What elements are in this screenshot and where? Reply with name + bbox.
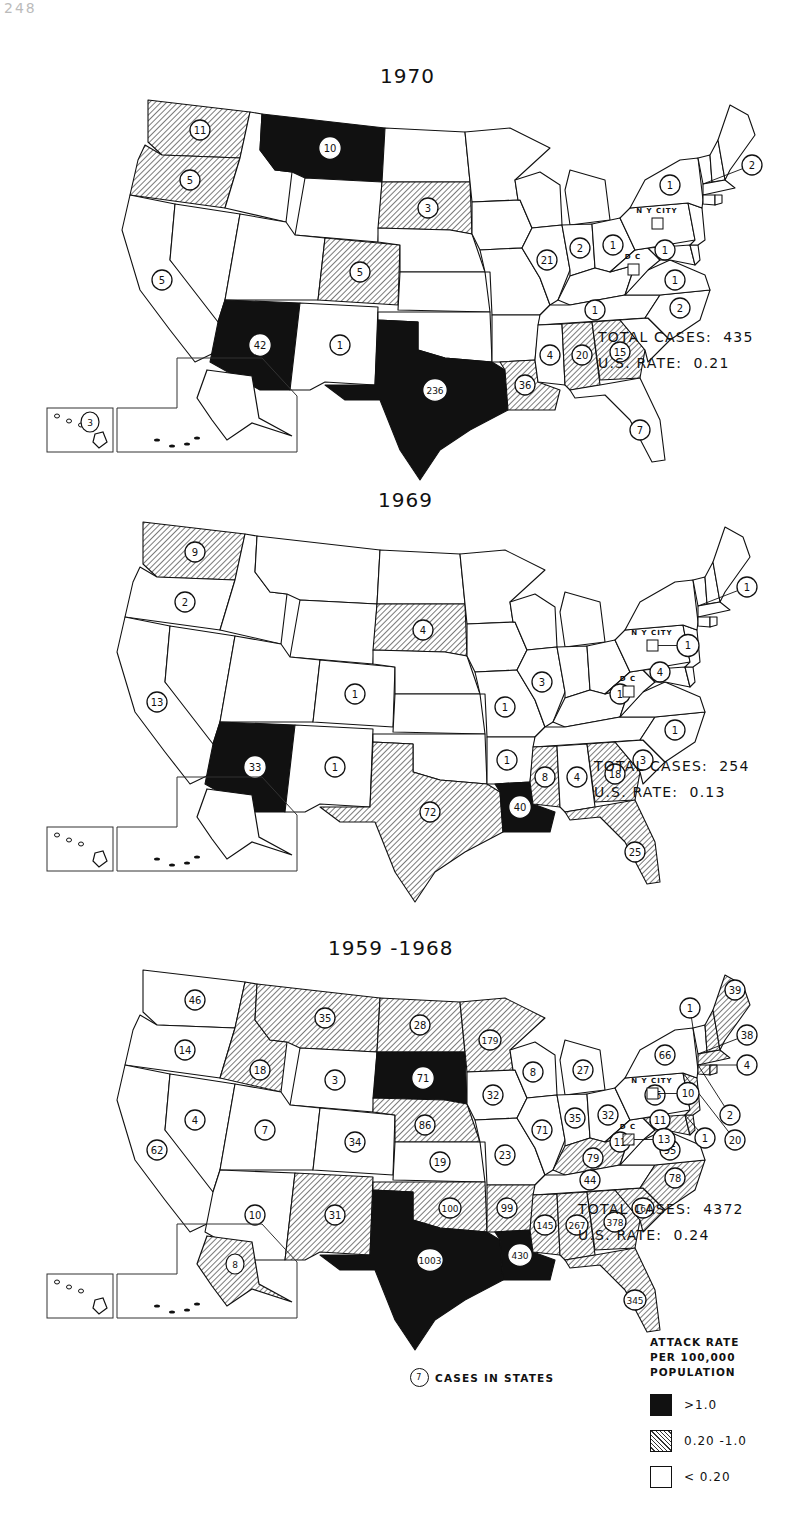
cases-circle-icon: 7 — [410, 1368, 429, 1387]
case-count-md: 4 — [650, 662, 670, 682]
svg-text:4: 4 — [657, 667, 663, 678]
state-ct — [698, 1065, 710, 1075]
map-stats: TOTAL CASES: 4372U.S. RATE: 0.24 — [578, 1196, 744, 1248]
svg-text:38: 38 — [741, 1030, 754, 1041]
svg-text:1: 1 — [352, 689, 358, 700]
svg-text:1003: 1003 — [419, 1256, 442, 1266]
map-panel-1969: 1969921333114721140384182531141N Y CITY1… — [0, 480, 792, 920]
svg-text:20: 20 — [729, 1135, 742, 1146]
case-count-or: 14 — [175, 1040, 195, 1060]
case-count-fl: 25 — [625, 842, 645, 862]
case-count-ms: 8 — [535, 767, 555, 787]
state-ny — [625, 580, 698, 630]
case-count-ny: 1 — [660, 175, 680, 195]
svg-text:N Y CITY: N Y CITY — [631, 1077, 672, 1085]
state-mi — [560, 592, 605, 647]
case-count-or: 2 — [175, 592, 195, 612]
total-cases: TOTAL CASES: 435 — [598, 324, 754, 350]
legend-title-1: ATTACK RATE — [650, 1335, 747, 1350]
case-count-ok: 100 — [439, 1198, 461, 1218]
svg-text:N Y CITY: N Y CITY — [631, 629, 672, 637]
svg-text:42: 42 — [254, 340, 267, 351]
svg-text:25: 25 — [629, 847, 642, 858]
case-count-il: 71 — [532, 1120, 552, 1140]
case-count-ca: 62 — [147, 1140, 167, 1160]
legend-item-mid: 0.20 -1.0 — [650, 1430, 747, 1452]
legend-label-mid: 0.20 -1.0 — [684, 1434, 747, 1449]
case-count-tn: 1 — [585, 300, 605, 320]
cases-key: 7 CASES IN STATES — [410, 1368, 554, 1387]
total-cases: TOTAL CASES: 4372 — [578, 1196, 744, 1222]
svg-text:145: 145 — [536, 1221, 553, 1231]
svg-text:1: 1 — [687, 1003, 693, 1014]
svg-text:71: 71 — [417, 1073, 430, 1084]
legend-title-2: PER 100,000 — [650, 1350, 747, 1365]
us-map: 11551042513236362121142015721112N Y CITY… — [0, 42, 792, 482]
case-count-nm: 1 — [330, 335, 350, 355]
state-ks — [398, 272, 490, 312]
svg-text:2: 2 — [749, 160, 755, 171]
case-count-la: 430 — [509, 1245, 531, 1265]
case-count-ia: 32 — [483, 1085, 503, 1105]
us-rate: U.S. RATE: 0.13 — [594, 779, 750, 805]
svg-text:5: 5 — [357, 267, 363, 278]
case-count-nv: 4 — [185, 1110, 205, 1130]
us-map: 4614624183537103431287186191001003179322… — [0, 928, 792, 1368]
case-count-wy: 3 — [325, 1070, 345, 1090]
svg-text:345: 345 — [626, 1296, 643, 1306]
svg-text:8: 8 — [530, 1067, 536, 1078]
state-ct — [698, 617, 710, 627]
state-ri — [710, 1065, 717, 1075]
case-count-mt: 35 — [315, 1008, 335, 1028]
svg-text:100: 100 — [441, 1204, 458, 1214]
case-count-la: 40 — [510, 797, 530, 817]
svg-text:1: 1 — [662, 245, 668, 256]
case-count-ne: 86 — [415, 1115, 435, 1135]
case-count-la: 36 — [515, 375, 535, 395]
svg-text:3: 3 — [425, 203, 431, 214]
svg-text:1: 1 — [610, 240, 616, 251]
svg-text:N Y CITY: N Y CITY — [636, 207, 677, 215]
case-count-fl: 7 — [630, 420, 650, 440]
case-count-mt: 10 — [320, 138, 340, 158]
case-count-ca: 5 — [152, 270, 172, 290]
case-count-az: 10 — [245, 1205, 265, 1225]
svg-text:11: 11 — [194, 125, 207, 136]
case-count-nd: 28 — [410, 1015, 430, 1035]
state-ar — [492, 315, 540, 362]
svg-text:11: 11 — [654, 1115, 667, 1126]
legend-label-high: >1.0 — [684, 1398, 717, 1413]
case-count-wi: 8 — [523, 1062, 543, 1082]
case-count-ky: 79 — [583, 1148, 603, 1168]
case-count-ar: 99 — [497, 1198, 517, 1218]
svg-text:1: 1 — [685, 640, 691, 651]
svg-text:23: 23 — [499, 1150, 512, 1161]
case-count-sd: 71 — [413, 1068, 433, 1088]
map-stats: TOTAL CASES: 435U.S. RATE: 0.21 — [598, 324, 754, 376]
svg-text:10: 10 — [324, 143, 337, 154]
us-map: 921333114721140384182531141N Y CITY1D C — [0, 480, 792, 920]
svg-text:44: 44 — [584, 1175, 597, 1186]
svg-text:1: 1 — [672, 275, 678, 286]
svg-text:1: 1 — [332, 762, 338, 773]
svg-text:2: 2 — [677, 303, 683, 314]
map-panel-1959-1968: 1959 -1968461462418353710343128718619100… — [0, 928, 792, 1368]
svg-text:7: 7 — [262, 1125, 268, 1136]
svg-text:78: 78 — [669, 1173, 682, 1184]
case-count-md: 1 — [655, 240, 675, 260]
case-count-vt: 1 — [680, 998, 700, 1028]
svg-text:14: 14 — [179, 1045, 192, 1056]
case-count-tx: 72 — [420, 802, 440, 822]
state-hi — [93, 851, 107, 867]
svg-text:13: 13 — [151, 697, 164, 708]
svg-text:19: 19 — [434, 1157, 447, 1168]
case-count-oh: 32 — [598, 1105, 618, 1125]
svg-text:2: 2 — [727, 1110, 733, 1121]
svg-text:8: 8 — [542, 772, 548, 783]
state-ri — [710, 617, 717, 627]
svg-text:D C: D C — [620, 1123, 636, 1131]
case-count-nc: 1 — [665, 720, 685, 740]
legend-item-high: >1.0 — [650, 1394, 747, 1416]
svg-text:9: 9 — [192, 547, 198, 558]
state-ct — [703, 195, 715, 205]
